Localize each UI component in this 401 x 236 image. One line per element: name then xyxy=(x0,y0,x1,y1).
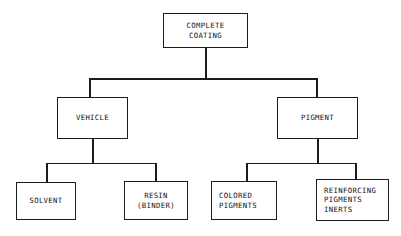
edge-vehicle-to-resin xyxy=(155,163,157,183)
edge-level1-bus xyxy=(89,78,318,80)
node-colored-pigments[interactable]: COLORED PIGMENTS xyxy=(211,181,277,220)
node-resin-binder-line-1: RESIN xyxy=(144,191,168,200)
node-colored-pigments-line-1: COLORED xyxy=(212,191,276,200)
edge-vehicle-to-solvent xyxy=(46,163,48,183)
node-solvent[interactable]: SOLVENT xyxy=(16,182,76,220)
node-solvent-label: SOLVENT xyxy=(29,196,62,205)
node-reinforcing-line-3: INERTS xyxy=(317,205,388,214)
node-pigment[interactable]: PIGMENT xyxy=(277,97,358,139)
node-vehicle[interactable]: VEHICLE xyxy=(57,97,128,139)
edge-vehicle-stem xyxy=(92,139,94,164)
node-complete-coating-line-1: COMPLETE xyxy=(187,21,225,30)
node-reinforcing-pigments-inerts[interactable]: REINFORCING PIGMENTS INERTS xyxy=(316,179,389,221)
node-complete-coating[interactable]: COMPLETE COATING xyxy=(163,13,248,48)
edge-root-stem xyxy=(205,48,207,79)
edge-vehicle-bus xyxy=(46,163,157,165)
node-pigment-label: PIGMENT xyxy=(301,113,334,122)
edge-pigment-stem xyxy=(317,139,319,164)
node-complete-coating-line-2: COATING xyxy=(189,31,222,40)
edge-pigment-to-colored xyxy=(246,163,248,183)
node-reinforcing-line-2: PIGMENTS xyxy=(317,195,388,204)
node-resin-binder-line-2: (BINDER) xyxy=(137,201,175,210)
node-vehicle-label: VEHICLE xyxy=(76,113,109,122)
node-colored-pigments-line-2: PIGMENTS xyxy=(212,201,276,210)
edge-root-to-pigment xyxy=(316,78,318,98)
edge-pigment-bus xyxy=(246,163,357,165)
node-resin-binder[interactable]: RESIN (BINDER) xyxy=(124,181,188,220)
node-reinforcing-line-1: REINFORCING xyxy=(317,186,388,195)
flowchart-canvas: COMPLETE COATING VEHICLE PIGMENT SOLVENT… xyxy=(0,0,401,236)
edge-root-to-vehicle xyxy=(89,78,91,98)
